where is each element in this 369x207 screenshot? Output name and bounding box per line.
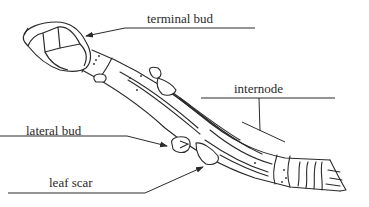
internode-label: internode — [234, 82, 283, 95]
terminal-bud-drawing — [23, 22, 90, 71]
lateral-bud-drawing — [172, 137, 190, 153]
lateral-bud-label: lateral bud — [26, 124, 81, 137]
internode-bracket-base — [242, 122, 285, 142]
leaf-scar-leader — [8, 167, 203, 193]
internode-bracket-stem — [259, 98, 260, 131]
small-bud-upper — [94, 74, 106, 82]
terminal-bud-label: terminal bud — [147, 12, 213, 25]
leaf-scar-label: leaf scar — [49, 176, 93, 189]
lenticels — [93, 55, 287, 183]
twig-stem — [82, 50, 346, 191]
terminal-bud-leader — [86, 28, 255, 36]
